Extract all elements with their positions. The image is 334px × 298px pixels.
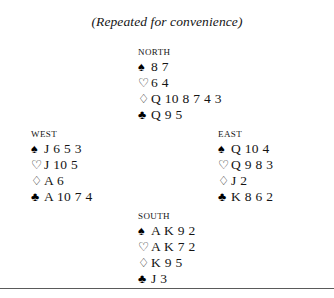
- club-icon: ♣: [218, 190, 231, 205]
- suit-row-clubs: ♣ A 10 7 4: [31, 189, 93, 205]
- suit-cards-spades: J 6 5 3: [44, 141, 82, 156]
- suit-cards-spades: Q 10 4: [231, 141, 270, 156]
- suit-cards-hearts: 6 4: [151, 75, 169, 90]
- suit-row-clubs: ♣ Q 9 5: [138, 107, 222, 123]
- diamond-icon: ♢: [138, 256, 151, 271]
- hand-east: East ♠ Q 10 4 ♡ Q 9 8 3 ♢ J 2 ♣ K 8 6 2: [218, 126, 273, 205]
- suit-row-diamonds: ♢ K 9 5: [138, 255, 195, 271]
- suit-cards-clubs: K 8 6 2: [231, 189, 273, 204]
- suit-row-clubs: ♣ K 8 6 2: [218, 189, 273, 205]
- suit-cards-diamonds: J 2: [231, 173, 247, 188]
- hand-west: West ♠ J 6 5 3 ♡ J 10 5 ♢ A 6 ♣ A 10 7 4: [31, 126, 93, 205]
- suit-row-spades: ♠ A K 9 2: [138, 223, 195, 239]
- suit-rows-south: ♠ A K 9 2 ♡ A K 7 2 ♢ K 9 5 ♣ J 3: [138, 223, 195, 287]
- heart-icon: ♡: [138, 240, 151, 255]
- suit-cards-spades: 8 7: [151, 59, 169, 74]
- suit-row-diamonds: ♢ J 2: [218, 173, 273, 189]
- suit-row-clubs: ♣ J 3: [138, 271, 195, 287]
- club-icon: ♣: [31, 190, 44, 205]
- suit-cards-diamonds: Q 10 8 7 4 3: [151, 91, 222, 106]
- suit-cards-clubs: Q 9 5: [151, 107, 183, 122]
- suit-row-hearts: ♡ Q 9 8 3: [218, 157, 273, 173]
- suit-cards-clubs: J 3: [151, 271, 167, 286]
- bottom-divider: [0, 288, 334, 289]
- suit-row-hearts: ♡ A K 7 2: [138, 239, 195, 255]
- suit-row-diamonds: ♢ Q 10 8 7 4 3: [138, 91, 222, 107]
- caption: (Repeated for convenience): [0, 14, 334, 30]
- diamond-icon: ♢: [218, 174, 231, 189]
- suit-cards-clubs: A 10 7 4: [44, 189, 93, 204]
- spade-icon: ♠: [31, 142, 44, 157]
- suit-cards-spades: A K 9 2: [151, 223, 195, 238]
- heart-icon: ♡: [31, 158, 44, 173]
- suit-cards-diamonds: A 6: [44, 173, 64, 188]
- suit-rows-north: ♠ 8 7 ♡ 6 4 ♢ Q 10 8 7 4 3 ♣ Q 9 5: [138, 59, 222, 123]
- suit-row-diamonds: ♢ A 6: [31, 173, 93, 189]
- suit-rows-east: ♠ Q 10 4 ♡ Q 9 8 3 ♢ J 2 ♣ K 8 6 2: [218, 141, 273, 205]
- suit-row-hearts: ♡ 6 4: [138, 75, 222, 91]
- suit-rows-west: ♠ J 6 5 3 ♡ J 10 5 ♢ A 6 ♣ A 10 7 4: [31, 141, 93, 205]
- spade-icon: ♠: [138, 224, 151, 239]
- suit-row-spades: ♠ J 6 5 3: [31, 141, 93, 157]
- hand-label-west: West: [31, 126, 93, 141]
- suit-cards-hearts: Q 9 8 3: [231, 157, 273, 172]
- diamond-icon: ♢: [31, 174, 44, 189]
- hand-label-east: East: [218, 126, 273, 141]
- heart-icon: ♡: [138, 76, 151, 91]
- heart-icon: ♡: [218, 158, 231, 173]
- bridge-hand-diagram: { "caption": "(Repeated for convenience)…: [0, 0, 334, 298]
- club-icon: ♣: [138, 108, 151, 123]
- hand-north: North ♠ 8 7 ♡ 6 4 ♢ Q 10 8 7 4 3 ♣ Q 9 5: [138, 44, 222, 123]
- suit-cards-hearts: J 10 5: [44, 157, 78, 172]
- suit-cards-diamonds: K 9 5: [151, 255, 183, 270]
- hand-label-south: South: [138, 208, 195, 223]
- hand-label-north: North: [138, 44, 222, 59]
- diamond-icon: ♢: [138, 92, 151, 107]
- hand-south: South ♠ A K 9 2 ♡ A K 7 2 ♢ K 9 5 ♣ J 3: [138, 208, 195, 287]
- spade-icon: ♠: [138, 60, 151, 75]
- suit-cards-hearts: A K 7 2: [151, 239, 195, 254]
- suit-row-spades: ♠ Q 10 4: [218, 141, 273, 157]
- spade-icon: ♠: [218, 142, 231, 157]
- suit-row-hearts: ♡ J 10 5: [31, 157, 93, 173]
- club-icon: ♣: [138, 272, 151, 287]
- suit-row-spades: ♠ 8 7: [138, 59, 222, 75]
